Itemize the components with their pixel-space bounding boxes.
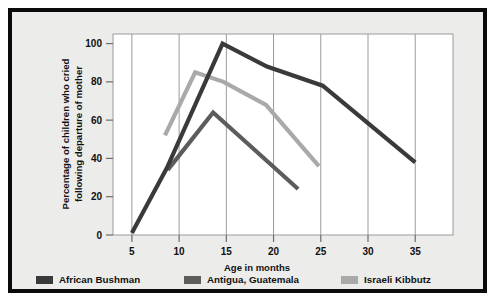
y-axis-ticks [106, 44, 113, 235]
legend-item-antigua-guatemala: Antigua, Guatemala [184, 274, 299, 285]
x-axis-title: Age in months [224, 262, 290, 273]
legend-item-israeli-kibbutz: Israeli Kibbutz [341, 274, 431, 285]
y-tick-label-20: 20 [91, 191, 103, 202]
chart-area: 020406080100 5101520253035 Percentage of… [12, 12, 483, 289]
line-chart: 020406080100 5101520253035 Percentage of… [12, 12, 483, 289]
figure-frame: 020406080100 5101520253035 Percentage of… [8, 8, 487, 293]
legend-label: Israeli Kibbutz [364, 274, 431, 285]
y-tick-label-40: 40 [91, 153, 103, 164]
legend-swatch-icon [184, 276, 201, 284]
legend-swatch-icon [341, 276, 358, 284]
x-axis-ticks [132, 235, 415, 242]
legend-item-african-bushman: African Bushman [36, 274, 140, 285]
y-axis-title-line1: Percentage of children who cried [60, 58, 71, 209]
y-axis-title-line2: following departure of mother [73, 66, 84, 202]
chart-legend: African BushmanAntigua, GuatemalaIsraeli… [36, 274, 466, 290]
legend-label: African Bushman [59, 274, 140, 285]
x-tick-label-35: 35 [410, 246, 422, 257]
y-tick-label-100: 100 [85, 38, 102, 49]
y-tick-label-60: 60 [91, 115, 103, 126]
y-tick-label-80: 80 [91, 76, 103, 87]
legend-swatch-icon [36, 276, 53, 284]
x-tick-label-10: 10 [174, 246, 186, 257]
x-tick-label-30: 30 [362, 246, 374, 257]
x-tick-label-20: 20 [268, 246, 280, 257]
x-tick-label-25: 25 [315, 246, 327, 257]
y-axis-title: Percentage of children who cried followi… [60, 58, 84, 209]
y-tick-label-0: 0 [96, 230, 102, 241]
legend-label: Antigua, Guatemala [207, 274, 299, 285]
y-axis-tick-labels: 020406080100 [85, 38, 102, 240]
x-tick-label-15: 15 [221, 246, 233, 257]
x-axis-tick-labels: 5101520253035 [129, 246, 421, 257]
x-tick-label-5: 5 [129, 246, 135, 257]
